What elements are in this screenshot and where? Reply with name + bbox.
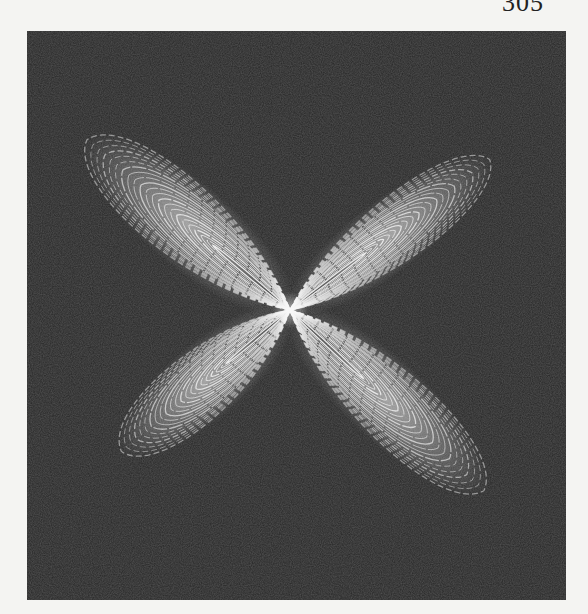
page-number: 305 [502,0,544,18]
center-node [272,292,308,328]
four-lobed-streamline-figure [27,31,566,600]
figure-plate [27,31,566,600]
